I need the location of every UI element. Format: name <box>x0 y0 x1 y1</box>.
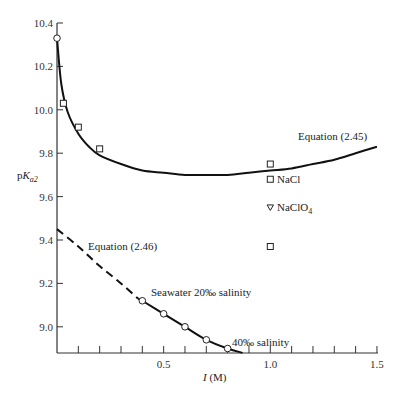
chart-canvas: 10.410.210.09.89.69.49.29.00.51.01.5 Equ… <box>0 0 399 396</box>
square-marker <box>60 100 66 106</box>
data-curves <box>57 38 377 353</box>
circle-marker <box>182 324 189 331</box>
axes: 10.410.210.09.89.69.49.29.00.51.01.5 <box>34 17 385 370</box>
naclo4-label: NaClO4 <box>277 201 312 216</box>
circle-marker <box>54 35 61 42</box>
square-marker <box>267 176 273 182</box>
triangle-marker <box>267 205 273 211</box>
equation-2-45-curve <box>57 38 377 175</box>
circle-marker <box>224 345 231 352</box>
square-marker <box>267 244 273 250</box>
square-marker <box>75 124 81 130</box>
x-axis-label: I (M) <box>202 371 227 384</box>
y-tick-label: 9.6 <box>39 191 53 203</box>
y-tick-label: 9.2 <box>39 277 53 289</box>
nacl-label: NaCl <box>277 173 300 185</box>
annotations: Equation (2.45) NaCl NaClO4 Equation (2.… <box>17 130 367 384</box>
square-marker <box>267 161 273 167</box>
seawater-40-label: 40‰ salinity <box>232 336 290 348</box>
y-axis-label: pKa2 <box>17 169 38 184</box>
circle-marker <box>139 297 146 304</box>
y-tick-label: 9.4 <box>39 234 53 246</box>
seawater-curve <box>138 299 243 353</box>
equation-2-46-label: Equation (2.46) <box>88 240 157 253</box>
circle-marker <box>203 337 210 344</box>
circle-marker <box>160 310 167 317</box>
x-tick-label: 0.5 <box>157 358 171 370</box>
seawater-20-label: Seawater 20‰ salinity <box>151 286 252 298</box>
data-markers <box>54 35 274 352</box>
y-tick-label: 9.0 <box>39 321 53 333</box>
y-tick-label: 10.0 <box>34 104 54 116</box>
y-tick-label: 10.2 <box>34 60 53 72</box>
x-tick-label: 1.0 <box>263 358 277 370</box>
x-tick-label: 1.5 <box>370 358 384 370</box>
equation-2-45-label: Equation (2.45) <box>298 130 367 143</box>
square-marker <box>97 146 103 152</box>
y-tick-label: 10.4 <box>34 17 54 29</box>
y-tick-label: 9.8 <box>39 147 53 159</box>
